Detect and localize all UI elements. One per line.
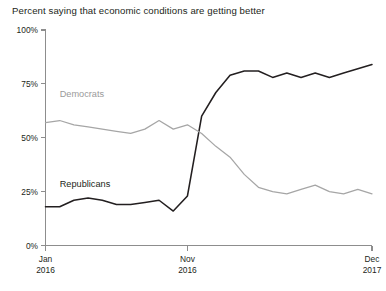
chart-page: Percent saying that economic conditions …	[0, 0, 386, 291]
x-tick-label-month: Jan	[39, 254, 53, 264]
y-tick-label: 100%	[17, 25, 39, 35]
y-axis-ticks: 0%25%50%75%100%	[17, 25, 46, 251]
series-label-republicans: Republicans	[60, 179, 111, 189]
y-tick-label: 25%	[21, 187, 38, 197]
line-chart: 0%25%50%75%100% Jan2016Nov2016Dec2017 Re…	[0, 0, 386, 291]
x-tick-label-year: 2017	[363, 265, 382, 275]
series-labels: RepublicansDemocrats	[60, 89, 111, 190]
x-tick-label-year: 2016	[36, 265, 55, 275]
x-tick-label-year: 2016	[178, 265, 197, 275]
y-tick-label: 75%	[21, 79, 38, 89]
x-tick-label-month: Nov	[180, 254, 196, 264]
y-tick-label: 50%	[21, 133, 38, 143]
x-tick-label-month: Dec	[365, 254, 380, 264]
series-label-democrats: Democrats	[60, 89, 105, 99]
x-axis-ticks: Jan2016Nov2016Dec2017	[36, 246, 381, 276]
y-tick-label: 0%	[26, 241, 39, 251]
